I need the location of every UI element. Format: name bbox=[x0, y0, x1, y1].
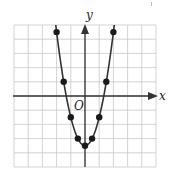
data-point bbox=[110, 29, 116, 35]
y-axis-label: y bbox=[85, 8, 93, 22]
data-point bbox=[89, 135, 95, 141]
data-point bbox=[82, 143, 88, 149]
origin-label: O bbox=[74, 99, 84, 113]
y-axis-arrow-icon bbox=[81, 24, 89, 34]
x-axis-arrow-icon bbox=[148, 92, 158, 100]
data-point bbox=[68, 114, 74, 120]
data-point bbox=[53, 29, 59, 35]
data-point bbox=[103, 79, 109, 85]
data-point bbox=[61, 79, 67, 85]
data-point bbox=[75, 135, 81, 141]
data-point bbox=[96, 114, 102, 120]
x-axis-label: x bbox=[159, 89, 166, 103]
coordinate-plane: x y O bbox=[0, 0, 173, 172]
scan-artifact bbox=[151, 2, 152, 6]
